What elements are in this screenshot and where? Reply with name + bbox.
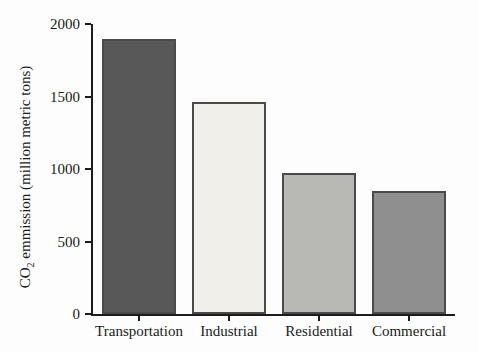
y-axis-tick [85,168,91,170]
y-axis-tick-label: 500 [0,233,84,251]
y-axis-tick-label: 2000 [0,15,84,33]
y-axis-title-prefix: CO [17,267,33,288]
bar-chart-figure: CO2 emmission (million metric tons) 0500… [0,0,478,352]
y-axis-tick-label: 1500 [0,88,84,106]
x-axis-tick [408,316,410,321]
bar-residential [282,173,356,314]
y-axis-tick-label: 1000 [0,160,84,178]
bar-industrial [192,102,266,314]
bar-commercial [372,191,446,314]
y-axis-tick [85,23,91,25]
y-axis-line [91,24,93,316]
y-axis-tick [85,241,91,243]
x-axis-tick [318,316,320,321]
y-axis-tick [85,96,91,98]
x-axis-tick [228,316,230,321]
x-axis-tick [138,316,140,321]
y-axis-tick-label: 0 [0,305,84,323]
y-axis-title-subscript: 2 [25,262,36,267]
x-axis-line [91,314,455,316]
bar-transportation [102,39,176,315]
category-label-commercial: Commercial [344,322,474,340]
y-axis-tick [85,313,91,315]
